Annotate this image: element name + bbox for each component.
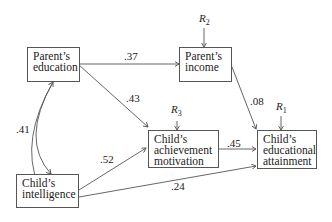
path-label-correlation: .41 — [16, 123, 30, 135]
node-child-attainment-line3: attainment — [263, 156, 312, 167]
residual-r2: R2 — [199, 12, 210, 27]
path-label-edu-motivation: .43 — [126, 92, 140, 104]
node-parent-education: Parent’s education — [27, 47, 80, 82]
path-label-intel-motivation: .52 — [100, 153, 114, 165]
node-child-attainment: Child’s educational attainment — [257, 130, 317, 169]
node-parent-income: Parent’s income — [179, 47, 232, 82]
path-label-income-attainment: .08 — [250, 95, 264, 107]
node-child-intelligence-line2: intelligence — [22, 189, 74, 200]
node-child-motivation-line3: motivation — [154, 156, 214, 167]
node-parent-education-line2: education — [33, 62, 75, 73]
node-child-intelligence: Child’s intelligence — [16, 174, 79, 208]
path-label-intel-attainment: .24 — [171, 180, 185, 192]
residual-r3: R3 — [171, 103, 182, 118]
path-label-motivation-attainment: .45 — [227, 137, 241, 149]
path-label-edu-income: .37 — [124, 50, 138, 62]
node-parent-income-line2: income — [185, 62, 227, 73]
node-child-motivation: Child’s achievement motivation — [148, 130, 219, 168]
residual-r1: R1 — [276, 100, 287, 115]
